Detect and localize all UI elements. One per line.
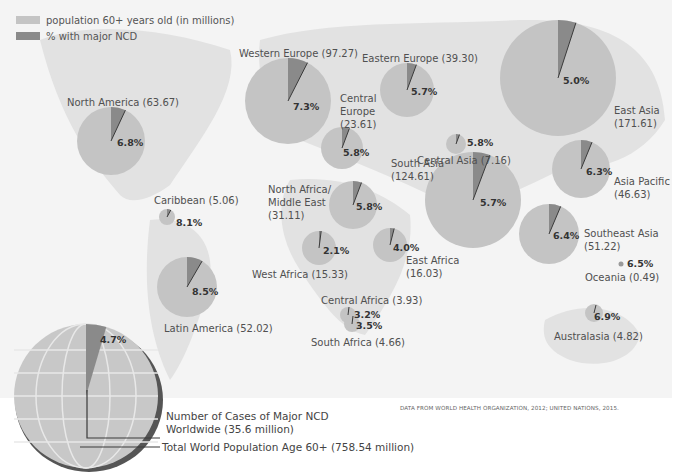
population-swatch	[16, 16, 40, 24]
label-east-africa-1: East Africa	[406, 254, 459, 267]
label-central-europe-2: Europe	[340, 105, 375, 118]
pct-australasia: 6.9%	[594, 311, 620, 322]
pie-central-asia	[446, 134, 466, 154]
label-north-africa-1: North Africa/	[268, 183, 331, 196]
label-caribbean: Caribbean (5.06)	[154, 194, 239, 207]
label-central-europe-3: (23.61)	[340, 118, 376, 131]
pct-central-africa: 3.2%	[354, 309, 380, 320]
label-north-africa-2: Middle East	[268, 196, 326, 209]
legend-item-population: population 60+ years old (in millions)	[16, 12, 234, 28]
label-north-africa-3: (31.11)	[268, 209, 304, 222]
pct-south-africa: 3.5%	[356, 320, 382, 331]
label-asia-pacific-2: (46.63)	[614, 188, 650, 201]
pct-latin-america: 8.5%	[192, 286, 218, 297]
label-west-africa: West Africa (15.33)	[252, 268, 348, 281]
pct-east-africa: 4.0%	[393, 242, 419, 253]
legend: population 60+ years old (in millions) %…	[16, 12, 234, 44]
pct-southeast-asia: 6.4%	[553, 230, 579, 241]
pct-north-africa: 5.8%	[356, 201, 382, 212]
world-total-label: Total World Population Age 60+ (758.54 m…	[162, 441, 414, 454]
ncd-infographic: population 60+ years old (in millions) %…	[0, 0, 678, 474]
pct-oceania: 6.5%	[627, 258, 653, 269]
label-north-america: North America (63.67)	[67, 96, 179, 109]
label-east-asia-1: East Asia	[614, 104, 660, 117]
label-east-asia-2: (171.61)	[614, 117, 657, 130]
source-note: DATA FROM WORLD HEALTH ORGANIZATION, 201…	[400, 405, 619, 411]
world-cases-label-2: Worldwide (35.6 million)	[166, 423, 294, 436]
pct-south-asia: 5.7%	[480, 197, 506, 208]
ncd-swatch	[16, 32, 40, 40]
label-south-asia-1: South Asia	[391, 157, 444, 170]
pct-central-europe: 5.8%	[343, 147, 369, 158]
pct-east-asia: 5.0%	[563, 75, 589, 86]
pct-eastern-europe: 5.7%	[411, 86, 437, 97]
label-central-europe-1: Central	[340, 92, 376, 105]
world-cases-label-1: Number of Cases of Major NCD	[166, 410, 329, 423]
pct-world: 4.7%	[100, 334, 126, 345]
pie-oceania	[619, 262, 624, 267]
label-western-europe: Western Europe (97.27)	[239, 47, 358, 60]
legend-population-label: population 60+ years old (in millions)	[46, 15, 234, 26]
legend-ncd-label: % with major NCD	[46, 31, 137, 42]
pct-north-america: 6.8%	[117, 137, 143, 148]
label-australasia: Australasia (4.82)	[554, 330, 643, 343]
label-oceania: Oceania (0.49)	[585, 271, 659, 284]
label-southeast-asia-2: (51.22)	[584, 240, 620, 253]
legend-item-ncd: % with major NCD	[16, 28, 234, 44]
world-globe-pie	[14, 324, 163, 472]
label-asia-pacific-1: Asia Pacific	[614, 175, 670, 188]
pct-asia-pacific: 6.3%	[586, 166, 612, 177]
label-eastern-europe: Eastern Europe (39.30)	[362, 52, 478, 65]
label-east-africa-2: (16.03)	[406, 267, 442, 280]
pie-caribbean	[159, 209, 175, 225]
label-south-africa: South Africa (4.66)	[311, 336, 405, 349]
pct-west-africa: 2.1%	[323, 245, 349, 256]
pct-western-europe: 7.3%	[293, 101, 319, 112]
label-latin-america: Latin America (52.02)	[164, 322, 273, 335]
pct-central-asia: 5.8%	[467, 137, 493, 148]
label-southeast-asia-1: Southeast Asia	[584, 227, 659, 240]
label-central-africa: Central Africa (3.93)	[321, 294, 422, 307]
pie-east-asia	[500, 20, 616, 136]
label-south-asia-2: (124.61)	[391, 170, 434, 183]
pct-caribbean: 8.1%	[176, 217, 202, 228]
